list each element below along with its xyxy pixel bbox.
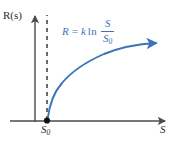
equation-coefficient: k: [81, 26, 86, 37]
equation-fraction: S S0: [101, 18, 114, 45]
x-axis-label: S: [160, 124, 166, 135]
equation-denominator-subscript: 0: [109, 37, 113, 46]
s0-tick-label-subscript: 0: [47, 128, 51, 137]
equation-annotation: R = k ln S S0: [62, 18, 114, 45]
equation-numerator: S: [103, 18, 113, 30]
equation-equals: =: [71, 26, 79, 37]
equation-log-function: ln: [88, 26, 97, 37]
y-axis-label: R(s): [3, 10, 22, 21]
figure-canvas: R(s) S S0 R = k ln S S0: [0, 0, 175, 144]
equation-lhs: R: [62, 26, 69, 37]
equation-denominator: S0: [101, 33, 114, 46]
s0-tick-label: S0: [41, 124, 50, 137]
log-curve: [48, 43, 157, 120]
